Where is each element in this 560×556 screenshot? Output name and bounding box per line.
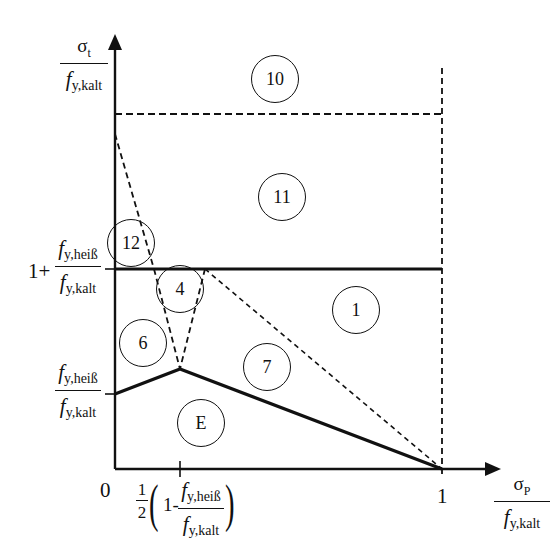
fraction-bar: [55, 266, 101, 267]
left-paren: (: [149, 478, 159, 530]
f-sub-heiss: y,heiß: [64, 247, 98, 262]
x-axis-label: σP fy,kalt: [494, 474, 550, 531]
fraction-bar: [494, 501, 550, 502]
y-axis-label: σt fy,kalt: [60, 36, 108, 93]
dashed-diagonal-right: [205, 269, 442, 469]
f-sub-kalt: y,kalt: [189, 523, 220, 538]
x-tick-mid-fraction: fy,heiß fy,kalt: [178, 480, 224, 538]
region-6: 6: [119, 319, 167, 367]
x-label-sigma-sub: P: [524, 484, 531, 498]
region-1: 1: [332, 286, 380, 334]
region-12: 12: [107, 219, 155, 267]
y-label-sigma: σ: [77, 35, 87, 56]
x-label-f-sub: y,kalt: [510, 516, 541, 531]
fraction-bar: [136, 500, 148, 501]
y-tick-upper-prefix: 1+: [28, 259, 50, 284]
y-axis-arrow-icon: [108, 34, 122, 50]
half-numerator: 1: [138, 481, 147, 498]
y-label-f-sub: y,kalt: [72, 78, 103, 93]
region-11: 11: [258, 173, 306, 221]
y-label-sigma-sub: t: [87, 46, 90, 60]
origin-label: 0: [100, 478, 111, 503]
x-tick-half: 1 2: [136, 481, 148, 521]
right-paren: ): [225, 478, 235, 530]
f-sub-kalt: y,kalt: [66, 281, 97, 296]
half-denominator: 2: [138, 504, 147, 521]
f-sub-heiss: y,heiß: [64, 371, 98, 386]
y-tick-upper-fraction: fy,heiß fy,kalt: [55, 238, 101, 296]
fraction-bar: [55, 390, 101, 391]
region-7: 7: [243, 343, 291, 391]
region-E: E: [177, 399, 225, 447]
one-minus: 1-: [163, 494, 179, 516]
f-sub-heiss: y,heiß: [187, 489, 221, 504]
x-tick-one-label: 1: [437, 484, 448, 509]
fraction-bar: [178, 508, 224, 509]
fraction-bar: [60, 63, 108, 64]
y-tick-lower-fraction: fy,heiß fy,kalt: [55, 362, 101, 420]
f-sub-kalt: y,kalt: [66, 405, 97, 420]
region-4: 4: [156, 265, 204, 313]
region-10: 10: [251, 55, 299, 103]
x-label-sigma: σ: [514, 473, 524, 494]
